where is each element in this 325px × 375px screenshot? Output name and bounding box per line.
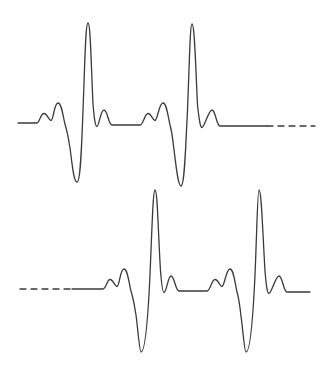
ecg-waveform-svg xyxy=(0,0,325,375)
figure-background xyxy=(0,0,325,375)
ecg-waveform-figure xyxy=(0,0,325,375)
